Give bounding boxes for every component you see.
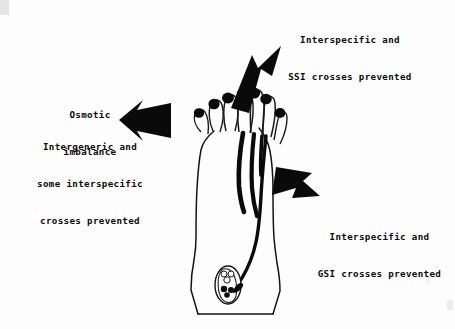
southeast-arrow	[272, 167, 320, 198]
egg-nucleus-3	[224, 292, 230, 298]
annotation-gsi-line-2: GSI crosses prevented	[304, 268, 455, 280]
pollen-grain-1	[194, 108, 204, 118]
pollen-tube-arrested-b	[252, 134, 257, 216]
annotation-ssi: Interspecific and SSI crosses prevented	[246, 10, 454, 108]
pollen-grain-7	[275, 108, 286, 118]
annotation-ssi-line-1: Interspecific and	[246, 34, 454, 46]
egg-nucleus-1	[221, 286, 227, 292]
annotation-intergeneric: Intergeneric and some interspecific cros…	[18, 117, 162, 251]
annotation-intergeneric-line-2: some interspecific	[18, 178, 162, 190]
annotation-intergeneric-line-1: Intergeneric and	[18, 141, 162, 153]
ovule-cell-2	[228, 271, 234, 277]
annotation-ssi-line-2: SSI crosses prevented	[246, 71, 454, 83]
ovule-cell-3	[224, 277, 230, 283]
pollen-grain-2	[208, 99, 219, 109]
annotation-gsi: Interspecific and GSI crosses prevented	[304, 207, 455, 305]
pollen-tube-arrested-a	[239, 133, 244, 212]
annotation-gsi-line-1: Interspecific and	[304, 231, 455, 243]
ovule-cell-1	[221, 271, 227, 277]
pistil-outline-left	[191, 131, 214, 314]
annotation-intergeneric-line-3: crosses prevented	[18, 215, 162, 227]
figure-canvas: Interspecific and SSI crosses prevented …	[0, 0, 455, 329]
pollen-grain-3	[222, 93, 234, 104]
